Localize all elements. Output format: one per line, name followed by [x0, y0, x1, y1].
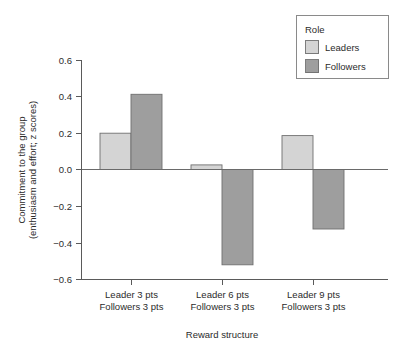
bar-chart-figure: 0.6 0.4 0.2 0.0 −0.2 −0.4 −0.6 Commitmen… [0, 0, 396, 356]
bar-leaders-3 [282, 136, 313, 170]
y-tick-label: 0.6 [59, 55, 72, 66]
x-category-label: Leader 6 pts [196, 289, 249, 300]
y-tick-label: −0.4 [53, 238, 72, 249]
y-tick-label: −0.6 [53, 274, 72, 285]
y-axis-title: Commitment to the group (enthusiasm and … [16, 101, 38, 239]
bar-leaders-2 [191, 165, 222, 170]
bar-leaders-1 [100, 133, 131, 169]
x-category-label: Leader 3 pts [105, 289, 158, 300]
y-tick-label: 0.4 [59, 91, 72, 102]
legend-label-followers[interactable]: Followers [325, 61, 366, 72]
legend-title: Role [305, 24, 325, 35]
y-tick-label: 0.2 [59, 128, 72, 139]
y-axis-title-line2: (enthusiasm and effort; z scores) [27, 101, 38, 239]
bar-followers-2 [222, 170, 253, 265]
legend-swatch-leaders[interactable] [306, 41, 319, 54]
y-tick-label: −0.2 [53, 201, 72, 212]
x-axis-title: Reward structure [186, 329, 258, 340]
x-category-label: Followers 3 pts [191, 301, 255, 312]
bar-followers-1 [131, 94, 162, 169]
bar-followers-3 [313, 170, 344, 230]
legend-swatch-followers[interactable] [306, 60, 319, 73]
chart-canvas: 0.6 0.4 0.2 0.0 −0.2 −0.4 −0.6 Commitmen… [0, 0, 396, 356]
x-axis-category-labels: Leader 3 pts Followers 3 pts Leader 6 pt… [100, 289, 346, 312]
legend: Role Leaders Followers [297, 16, 389, 79]
legend-label-leaders[interactable]: Leaders [325, 42, 360, 53]
x-category-label: Leader 9 pts [287, 289, 340, 300]
x-category-label: Followers 3 pts [282, 301, 346, 312]
y-axis-title-line1: Commitment to the group [16, 116, 27, 223]
x-category-label: Followers 3 pts [100, 301, 164, 312]
y-tick-label: 0.0 [59, 164, 72, 175]
